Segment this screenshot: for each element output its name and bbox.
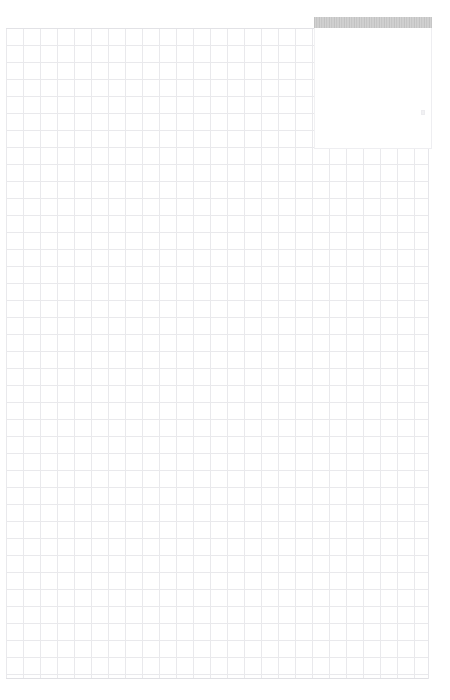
margin-top xyxy=(0,0,450,17)
overlay-panel-titlebar[interactable] xyxy=(314,17,432,28)
overlay-panel-left-edge xyxy=(314,28,315,149)
overlay-panel-bottom-edge xyxy=(314,148,432,149)
panel-artifact-mark xyxy=(421,110,425,115)
margin-left xyxy=(0,0,6,700)
margin-right xyxy=(432,0,450,700)
app-root xyxy=(0,0,450,700)
overlay-panel-body[interactable] xyxy=(315,28,431,148)
margin-bottom xyxy=(0,680,450,700)
overlay-panel-right-edge xyxy=(431,28,432,149)
